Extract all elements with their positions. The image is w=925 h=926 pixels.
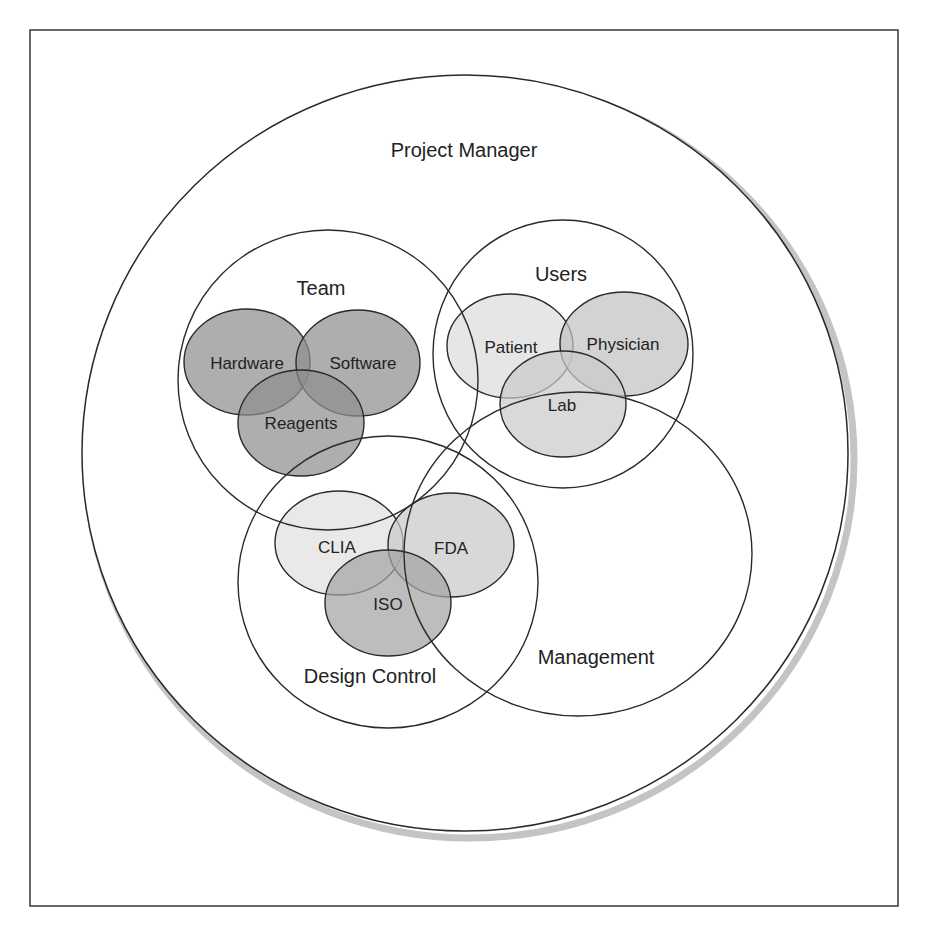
patient-label: Patient: [485, 338, 538, 357]
venn-diagram: Project Manager Team Hardware Software R…: [0, 0, 925, 926]
software-label: Software: [329, 354, 396, 373]
users-label: Users: [535, 263, 587, 285]
management-label: Management: [538, 646, 655, 668]
iso-label: ISO: [373, 595, 402, 614]
fda-label: FDA: [434, 539, 469, 558]
clia-label: CLIA: [318, 538, 356, 557]
project-manager-label: Project Manager: [391, 139, 538, 161]
design-control-label: Design Control: [304, 665, 436, 687]
hardware-label: Hardware: [210, 354, 284, 373]
team-label: Team: [297, 277, 346, 299]
physician-label: Physician: [587, 335, 660, 354]
lab-label: Lab: [548, 396, 576, 415]
reagents-label: Reagents: [265, 414, 338, 433]
